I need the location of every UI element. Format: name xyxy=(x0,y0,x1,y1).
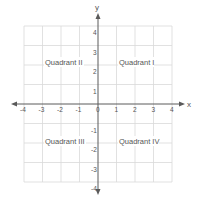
x-tick-label: -4 xyxy=(20,106,26,113)
y-tick-label: -1 xyxy=(91,127,97,134)
x-axis-label: x xyxy=(187,100,191,109)
y-tick-label: 2 xyxy=(93,68,97,75)
y-axis-top-arrow-icon xyxy=(96,13,101,19)
y-tick-label: -4 xyxy=(91,185,97,192)
y-tick-label: 4 xyxy=(93,29,97,36)
coordinate-plane: x y -4-3-2-101234 4321-1-2-3-4 Quadrant … xyxy=(0,0,203,201)
x-tick-label: 4 xyxy=(170,106,174,113)
x-tick-label: 0 xyxy=(96,106,100,113)
axes: x y xyxy=(11,3,191,195)
x-axis-right-arrow-icon xyxy=(179,102,185,107)
quadrant-ii-label: Quadrant II xyxy=(45,58,83,67)
quadrant-iii-label: Quadrant III xyxy=(45,137,85,146)
quadrant-i-label: Quadrant I xyxy=(119,58,154,67)
y-tick-label: -2 xyxy=(91,146,97,153)
x-tick-label: 3 xyxy=(152,106,156,113)
y-tick-label: 1 xyxy=(93,88,97,95)
y-axis-label: y xyxy=(95,3,99,12)
x-tick-label: -2 xyxy=(57,106,63,113)
x-tick-label: 2 xyxy=(133,106,137,113)
x-tick-label: 1 xyxy=(115,106,119,113)
y-tick-label: 3 xyxy=(93,49,97,56)
y-tick-label: -3 xyxy=(91,166,97,173)
x-tick-label: -1 xyxy=(76,106,82,113)
quadrant-iv-label: Quadrant IV xyxy=(119,137,159,146)
x-axis-left-arrow-icon xyxy=(11,102,17,107)
x-tick-labels: -4-3-2-101234 xyxy=(20,106,174,113)
x-tick-label: -3 xyxy=(39,106,45,113)
